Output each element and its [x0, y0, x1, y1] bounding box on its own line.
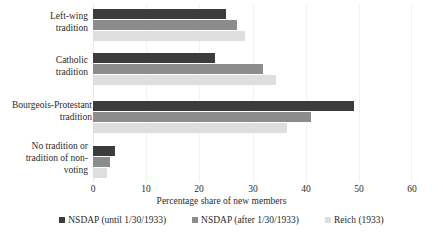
legend-label: Reich (1933)	[334, 214, 384, 226]
bar-row	[93, 101, 412, 111]
category-label-line: No tradition or	[0, 140, 88, 152]
x-tick-40: 40	[301, 183, 311, 195]
x-tick-30: 30	[248, 183, 258, 195]
bar-0[interactable]	[93, 53, 215, 63]
bar-2[interactable]	[93, 123, 287, 133]
chart-legend: NSDAP (until 1/30/1933) NSDAP (after 1/3…	[0, 214, 443, 226]
category-label-line: Bourgeois-Protestant	[0, 99, 92, 111]
bar-1[interactable]	[93, 20, 237, 30]
category-label-line: tradition	[0, 111, 92, 123]
legend-item-reich[interactable]: Reich (1933)	[325, 214, 384, 226]
bar-chart: Left-wing tradition Catholic tradition B…	[0, 0, 443, 239]
legend-item-nsdap-after[interactable]: NSDAP (after 1/30/1933)	[192, 214, 299, 226]
category-label-bourgeois-protestant: Bourgeois-Protestant tradition	[0, 99, 92, 123]
bar-row	[93, 64, 412, 74]
x-tick-50: 50	[354, 183, 364, 195]
legend-swatch-icon	[59, 217, 65, 223]
bar-group-bourgeois-protestant	[93, 101, 412, 134]
bar-row	[93, 53, 412, 63]
category-label-line: tradition	[0, 66, 88, 78]
x-tick-20: 20	[194, 183, 204, 195]
category-label-line: Left-wing	[0, 10, 88, 22]
category-label-no-tradition: No tradition or tradition of non- voting	[0, 140, 88, 176]
plot-area	[93, 4, 412, 182]
category-label-line: Catholic	[0, 54, 88, 66]
x-tick-60: 60	[407, 183, 417, 195]
legend-swatch-icon	[325, 217, 331, 223]
bar-2[interactable]	[93, 75, 276, 85]
legend-item-nsdap-until[interactable]: NSDAP (until 1/30/1933)	[59, 214, 166, 226]
legend-label: NSDAP (after 1/30/1933)	[201, 214, 299, 226]
x-tick-10: 10	[141, 183, 151, 195]
legend-label: NSDAP (until 1/30/1933)	[68, 214, 166, 226]
bar-row	[93, 168, 412, 178]
bar-row	[93, 31, 412, 41]
legend-swatch-icon	[192, 217, 198, 223]
bar-1[interactable]	[93, 112, 311, 122]
x-tick-0: 0	[91, 183, 96, 195]
bar-2[interactable]	[93, 168, 107, 178]
bar-0[interactable]	[93, 101, 354, 111]
category-label-line: tradition	[0, 22, 88, 34]
bar-row	[93, 112, 412, 122]
bar-row	[93, 123, 412, 133]
bar-row	[93, 20, 412, 30]
bar-group-catholic	[93, 53, 412, 86]
bar-0[interactable]	[93, 9, 226, 19]
bar-1[interactable]	[93, 64, 263, 74]
bar-row	[93, 157, 412, 167]
bar-0[interactable]	[93, 146, 115, 156]
bar-row	[93, 9, 412, 19]
bar-row	[93, 146, 412, 156]
category-label-line: tradition of non-	[0, 152, 88, 164]
category-label-left-wing: Left-wing tradition	[0, 10, 88, 34]
bar-row	[93, 75, 412, 85]
category-label-catholic: Catholic tradition	[0, 54, 88, 78]
x-axis-title: Percentage share of new members	[0, 195, 443, 207]
bar-group-left-wing	[93, 9, 412, 42]
bar-2[interactable]	[93, 31, 245, 41]
bar-1[interactable]	[93, 157, 110, 167]
bar-group-no-tradition	[93, 146, 412, 179]
category-label-line: voting	[0, 164, 88, 176]
